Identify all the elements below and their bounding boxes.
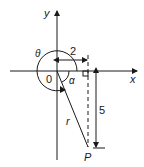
x-axis-label: x <box>129 73 136 85</box>
r-label: r <box>66 115 71 127</box>
vertical-dimension-label: 5 <box>99 104 105 116</box>
point-p-label: P <box>84 151 92 163</box>
y-axis-label: y <box>43 7 51 19</box>
horizontal-dimension-label: 2 <box>70 45 76 57</box>
diagram-canvas: y x 0 θ α 2 5 r P <box>0 0 144 167</box>
alpha-arc <box>62 71 69 82</box>
right-angle-marker <box>83 71 88 76</box>
theta-label: θ <box>35 48 41 59</box>
origin-label: 0 <box>46 73 52 85</box>
alpha-label: α <box>69 75 75 86</box>
